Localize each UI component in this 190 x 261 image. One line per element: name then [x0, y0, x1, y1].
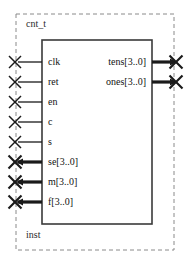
block-symbol-diagram: cnt_t inst clkretencsse[3..0]m[3..0]f[3.…	[0, 0, 190, 261]
output-port-label: tens[3..0]	[0, 56, 146, 67]
input-port-label: s	[48, 136, 52, 147]
output-wire-group	[152, 59, 177, 86]
input-port-label: se[3..0]	[48, 156, 78, 167]
input-port-label: f[3..0]	[48, 196, 73, 207]
schematic-canvas	[0, 0, 190, 261]
input-port-label: c	[48, 116, 52, 127]
input-port-label: en	[48, 96, 57, 107]
block-name-label: cnt_t	[26, 18, 46, 29]
output-port-label: ones[3..0]	[0, 76, 146, 87]
instance-name-label: inst	[26, 229, 40, 240]
input-port-label: m[3..0]	[48, 176, 77, 187]
